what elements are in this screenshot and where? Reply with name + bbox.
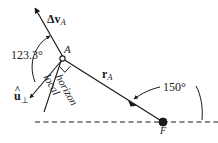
u-perp-label: ^u ⊥ (14, 90, 29, 104)
delta-v-label: ΔvA (47, 13, 66, 27)
true-anomaly-angle-label: 150° (163, 81, 186, 93)
orbital-mechanics-diagram: ΔvA 123.3° A ^u ⊥ rA 150° F local horizo… (0, 0, 218, 143)
radius-vector-arrowhead (128, 100, 137, 106)
delta-v-symbol: Δv (47, 12, 61, 26)
angle-arc-150-tail (196, 86, 202, 120)
u-perp-subscript: ⊥ (21, 95, 29, 105)
u-perp-symbol-wrap: ^u (14, 90, 21, 102)
flight-path-angle-label: 123.3° (11, 49, 43, 61)
angle-arc-150 (134, 87, 160, 99)
radius-vector-label: rA (102, 68, 113, 82)
radius-vector-subscript: A (107, 72, 112, 82)
right-angle-marker (60, 66, 71, 72)
delta-v-subscript: A (61, 17, 66, 27)
point-f-label: F (160, 126, 166, 136)
point-a-label: A (64, 44, 71, 55)
u-perp-hat: ^ (14, 85, 21, 95)
point-a-marker (60, 56, 65, 61)
